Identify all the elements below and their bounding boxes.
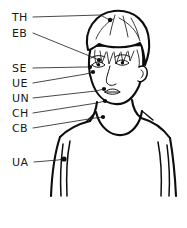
point-label-se: SE — [12, 62, 27, 75]
eye-left-pupil — [97, 63, 100, 66]
eye-right-pupil — [121, 61, 124, 64]
point-label-ch: CH — [12, 107, 29, 120]
point-label-un: UN — [12, 92, 29, 105]
tapping-point-ue[interactable] — [91, 70, 95, 74]
tapping-point-un[interactable] — [102, 87, 106, 91]
point-label-eb: EB — [12, 27, 27, 40]
point-label-ue: UE — [12, 77, 28, 90]
tapping-point-ch[interactable] — [103, 99, 107, 103]
point-label-cb: CB — [12, 122, 28, 135]
tapping-point-eb[interactable] — [97, 58, 101, 62]
point-label-ua: UA — [12, 156, 28, 169]
eft-tapping-points-diagram: TH EB SE UE UN CH CB UA — [0, 0, 187, 228]
tapping-point-th[interactable] — [108, 18, 112, 22]
tapping-point-ua[interactable] — [61, 156, 66, 161]
diagram-canvas: TH EB SE UE UN CH CB UA — [0, 0, 187, 228]
ear-outline — [138, 66, 147, 82]
point-label-th: TH — [11, 11, 28, 24]
tapping-point-cb[interactable] — [101, 115, 105, 119]
tapping-point-se[interactable] — [88, 65, 92, 69]
